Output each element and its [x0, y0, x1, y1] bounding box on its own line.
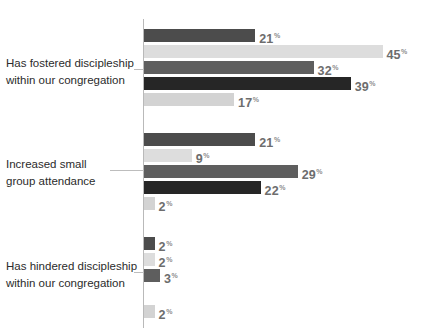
percent-sign: % — [279, 184, 285, 191]
label-leader-line — [134, 272, 144, 273]
label-leader-line — [110, 170, 144, 171]
percent-sign: % — [332, 64, 338, 71]
category-label: Increased smallgroup attendance — [6, 156, 134, 190]
bar — [144, 253, 155, 266]
label-leader-line — [134, 69, 144, 70]
bar-value-label: 2% — [159, 197, 173, 214]
bar-value-label: 17% — [238, 93, 259, 110]
bar-value-number: 21 — [259, 136, 273, 150]
bar — [144, 165, 298, 178]
bar — [144, 29, 255, 42]
bar-value-number: 39 — [355, 80, 369, 94]
bar — [144, 133, 255, 146]
bar-value-label: 29% — [302, 165, 323, 182]
percent-sign: % — [166, 308, 172, 315]
bar — [144, 45, 383, 58]
bar-value-number: 45 — [387, 48, 401, 62]
bar-value-number: 2 — [159, 200, 166, 214]
bar-value-label: 3% — [164, 269, 178, 286]
bar-value-number: 17 — [238, 96, 252, 110]
bar-value-label: 21% — [259, 133, 280, 150]
bar — [144, 93, 234, 106]
bar-value-label: 2% — [159, 237, 173, 254]
bar-value-label: 2% — [159, 253, 173, 270]
percent-sign: % — [203, 152, 209, 159]
percent-sign: % — [316, 168, 322, 175]
bar — [144, 269, 160, 282]
bar-value-label: 39% — [355, 77, 376, 94]
category-label-line: Has hindered discipleship — [6, 258, 134, 275]
category-label-line: within our congregation — [6, 275, 134, 292]
category-label-line: Has fostered discipleship — [6, 55, 134, 72]
category-label-line: within our congregation — [6, 72, 134, 89]
percent-sign: % — [369, 80, 375, 87]
bar-value-number: 22 — [265, 184, 279, 198]
bar-value-label: 22% — [265, 181, 286, 198]
bar-value-label: 32% — [318, 61, 339, 78]
bar-chart: 21%45%32%39%17%21%9%29%22%2%2%2%3%2%Has … — [0, 0, 421, 335]
bar — [144, 61, 314, 74]
percent-sign: % — [274, 136, 280, 143]
bar-value-label: 21% — [259, 29, 280, 46]
bar — [144, 149, 192, 162]
bar — [144, 181, 261, 194]
bar-value-number: 29 — [302, 168, 316, 182]
bar-value-number: 3 — [164, 272, 171, 286]
percent-sign: % — [274, 32, 280, 39]
percent-sign: % — [401, 48, 407, 55]
percent-sign: % — [166, 240, 172, 247]
bar — [144, 77, 351, 90]
bar-value-label: 2% — [159, 305, 173, 322]
bar — [144, 197, 155, 210]
percent-sign: % — [171, 272, 177, 279]
percent-sign: % — [166, 200, 172, 207]
percent-sign: % — [166, 256, 172, 263]
category-label: Has hindered discipleshipwithin our cong… — [6, 258, 134, 292]
plot-area: 21%45%32%39%17%21%9%29%22%2%2%2%3%2%Has … — [0, 0, 421, 335]
category-label-line: group attendance — [6, 173, 134, 190]
bar — [144, 237, 155, 250]
bar-value-label: 9% — [196, 149, 210, 166]
bar — [144, 305, 155, 318]
bar-value-number: 2 — [159, 308, 166, 322]
bar-value-label: 45% — [387, 45, 408, 62]
category-label: Has fostered discipleshipwithin our cong… — [6, 55, 134, 89]
percent-sign: % — [253, 96, 259, 103]
